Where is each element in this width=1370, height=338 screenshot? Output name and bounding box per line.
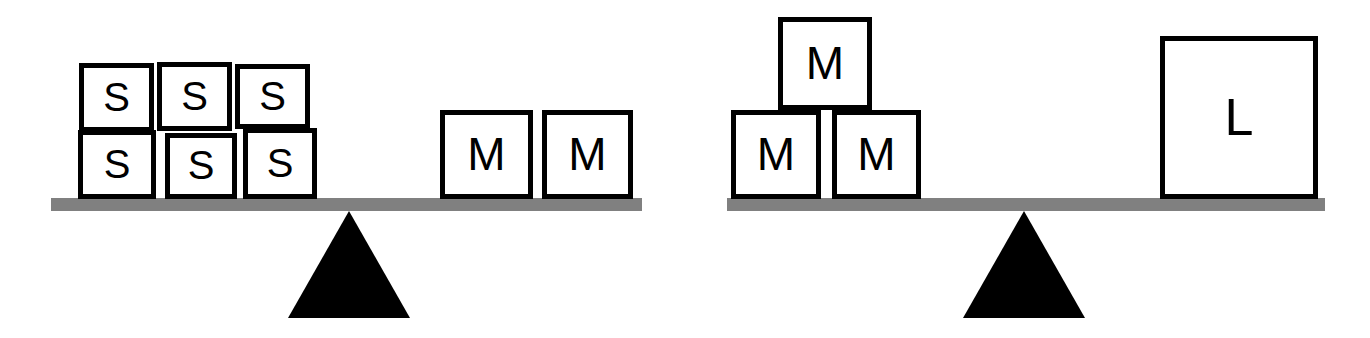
- right-balance-beam: [727, 198, 1325, 211]
- block-label: M: [806, 40, 844, 86]
- block-label: M: [757, 131, 795, 177]
- block-label: M: [857, 131, 895, 177]
- right-balance-scale: M M M L: [0, 0, 1370, 338]
- right-balance-fulcrum: [963, 211, 1085, 318]
- block-m-bottom-left: M: [731, 110, 821, 199]
- block-m-top: M: [778, 17, 872, 110]
- balance-diagram-canvas: S S S S S S M M M M M L: [0, 0, 1370, 338]
- block-m-bottom-right: M: [832, 110, 921, 199]
- block-label: L: [1225, 91, 1254, 143]
- block-l-large: L: [1160, 36, 1318, 199]
